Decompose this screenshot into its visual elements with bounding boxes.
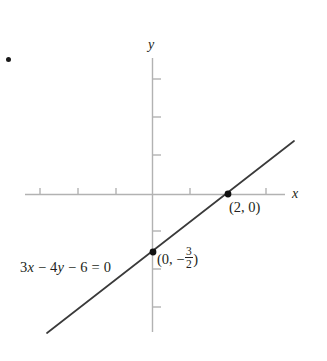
- equation-label: 3x − 4y − 6 = 0: [20, 260, 111, 275]
- y-intercept-open: (0, −: [157, 251, 185, 267]
- line-graph-figure: y x 3x − 4y − 6 = 0 (0, −32) (2, 0): [0, 0, 327, 361]
- plotted-line: [47, 141, 294, 333]
- y-intercept-label: (0, −32): [157, 245, 198, 271]
- x-axis-label: x: [292, 187, 298, 201]
- point-x-intercept: [225, 191, 232, 198]
- y-intercept-close: ): [193, 251, 198, 267]
- x-axis-group: [25, 188, 285, 195]
- fraction-numerator: 3: [185, 245, 193, 257]
- fraction-denominator: 2: [185, 257, 193, 270]
- equation-text: 3x − 4y − 6 = 0: [20, 259, 111, 275]
- y-axis-label: y: [148, 38, 154, 52]
- x-intercept-label: (2, 0): [229, 200, 260, 215]
- coordinate-plane: [0, 0, 327, 361]
- fraction-three-halves: 32: [185, 245, 193, 271]
- point-y-intercept: [150, 249, 157, 256]
- y-axis-ticks: [152, 79, 161, 307]
